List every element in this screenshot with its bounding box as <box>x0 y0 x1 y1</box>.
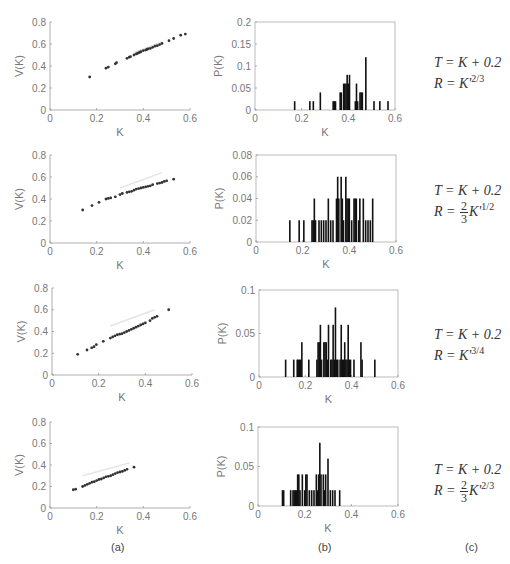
x-tick-label: 0 <box>256 380 262 391</box>
x-axis-label: K <box>116 259 124 271</box>
x-tick-label: 0.6 <box>183 511 197 522</box>
data-point <box>119 471 122 474</box>
data-point <box>95 343 98 346</box>
histogram-bar <box>303 220 305 242</box>
x-tick-label: 0 <box>47 246 53 257</box>
formula-base: K' <box>469 204 481 219</box>
x-tick-label: 0.4 <box>136 113 150 124</box>
histogram-3: 00.20.40.600.050.1KP(K) <box>216 285 405 406</box>
data-point <box>121 192 124 195</box>
data-point <box>105 198 108 201</box>
data-point <box>76 353 79 356</box>
histogram-bar <box>359 199 361 243</box>
scatter-plot-2: 00.20.40.600.20.40.60.8KV(K) <box>13 150 197 272</box>
data-point <box>98 478 101 481</box>
frac-den: 3 <box>460 492 468 504</box>
histogram-bar <box>321 360 323 377</box>
histogram-bar <box>351 220 353 242</box>
histogram-bar <box>323 220 325 242</box>
y-axis-label: P(K) <box>215 456 227 478</box>
exp-den: 4 <box>479 345 484 356</box>
y-tick-label: 0 <box>40 105 46 116</box>
x-tick-label: 0 <box>47 511 53 522</box>
y-tick-label: 0.2 <box>34 348 48 359</box>
histogram-bar <box>328 325 330 377</box>
histogram-bar <box>356 199 358 243</box>
x-tick-label: 0.2 <box>90 246 104 257</box>
panel-label-b: (b) <box>318 541 331 553</box>
data-point <box>142 49 145 52</box>
histogram-bar <box>367 220 369 242</box>
data-point <box>184 33 187 36</box>
data-point <box>147 185 150 188</box>
reference-line <box>120 173 162 188</box>
x-axis-label: K <box>118 391 126 403</box>
data-point <box>91 481 94 484</box>
histogram-bar <box>283 490 285 506</box>
histogram-bar <box>309 490 311 506</box>
histogram-bar <box>320 92 322 110</box>
y-tick-label: 0.4 <box>32 61 46 72</box>
x-tick-label: 0.6 <box>183 246 197 257</box>
data-point <box>147 48 150 51</box>
data-point <box>93 345 96 348</box>
frac-den: 3 <box>460 213 468 225</box>
data-point <box>102 340 105 343</box>
x-axis-label: K <box>325 393 333 405</box>
data-point <box>81 209 84 212</box>
histogram-bar <box>298 220 300 242</box>
data-point <box>118 333 121 336</box>
data-point <box>116 333 119 336</box>
data-point <box>137 187 140 190</box>
reference-line <box>83 463 130 476</box>
y-tick-label: 0.6 <box>32 172 46 183</box>
histogram-4: 00.20.40.600.050.1KP(K) <box>215 422 405 535</box>
data-point <box>156 182 159 185</box>
y-tick-label: 0 <box>42 370 48 381</box>
data-point <box>98 201 101 204</box>
frac-num: 2 <box>460 200 468 213</box>
histogram-bar <box>330 220 332 242</box>
x-axis-label: K <box>116 126 124 138</box>
x-axis-label: K <box>324 522 332 534</box>
data-point <box>133 466 136 469</box>
data-point <box>105 475 108 478</box>
x-tick-label: 0.6 <box>391 509 405 520</box>
histogram-bar <box>327 459 329 506</box>
y-tick-label: 0 <box>245 105 251 116</box>
x-tick-label: 0 <box>255 509 261 520</box>
x-tick-label: 0.4 <box>136 511 150 522</box>
y-tick-label: 0.1 <box>237 61 251 72</box>
y-tick-label: 0.4 <box>32 194 46 205</box>
histogram-bar <box>353 360 355 377</box>
formula-t: T = K + 0.2 <box>434 183 501 199</box>
data-point <box>129 55 132 58</box>
formula-r: R = K'3/4 <box>434 343 501 364</box>
histogram-bar <box>309 101 311 110</box>
y-tick-label: 0.05 <box>236 328 256 339</box>
y-tick-label: 0 <box>40 238 46 249</box>
x-tick-label: 0 <box>252 113 258 124</box>
fraction: 23 <box>460 479 468 504</box>
formula-r: R = K'2/3 <box>434 71 501 92</box>
y-tick-label: 0 <box>249 372 255 383</box>
data-point <box>165 179 168 182</box>
data-point <box>161 42 164 45</box>
histogram-bar <box>350 360 352 377</box>
data-point <box>107 66 110 69</box>
formula-t: T = K + 0.2 <box>434 327 501 343</box>
panel-label-a: (a) <box>111 541 124 553</box>
histogram-bar <box>321 220 323 242</box>
y-axis-label: V(K) <box>13 55 25 77</box>
y-axis-label: P(K) <box>216 323 228 345</box>
y-tick-label: 0.05 <box>235 461 255 472</box>
histogram-bar <box>341 92 343 110</box>
formula-r: R = 23K'1/2 <box>434 199 501 225</box>
data-point <box>140 187 143 190</box>
y-axis-label: P(K) <box>213 188 225 210</box>
y-tick-label: 0.06 <box>233 171 253 182</box>
histogram-bar <box>294 101 296 110</box>
histogram-bar <box>335 101 337 110</box>
y-tick-label: 0.2 <box>32 481 46 492</box>
x-axis-label: K <box>321 126 329 138</box>
